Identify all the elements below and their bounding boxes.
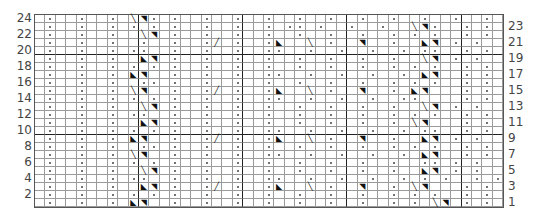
purl-stitch-cell (170, 151, 180, 159)
knit-stitch-cell (149, 71, 159, 79)
purl-stitch-cell (472, 55, 482, 63)
knit-stitch-cell (482, 135, 492, 143)
cable-stitch-cell: ◥ (139, 135, 149, 143)
purl-stitch-cell (77, 151, 87, 159)
knit-stitch-cell (316, 119, 326, 127)
knit-stitch-cell (243, 127, 253, 135)
knit-stitch-cell (66, 199, 76, 207)
twist-right-icon: ◥ (358, 39, 367, 46)
purl-stitch-cell (202, 143, 212, 151)
knit-stitch-cell (378, 127, 388, 135)
knit-stitch-cell (337, 23, 347, 31)
twist-right-icon: ◥ (149, 167, 158, 174)
knit-stitch-cell (56, 55, 66, 63)
knit-stitch-cell (295, 95, 305, 103)
knit-stitch-cell (66, 159, 76, 167)
knit-stitch-cell (378, 111, 388, 119)
twist-right-icon: ◥ (441, 199, 450, 206)
knit-stitch-cell (35, 15, 45, 23)
knit-stitch-cell (191, 127, 201, 135)
purl-stitch-cell (202, 135, 212, 143)
knit-stitch-cell (254, 103, 264, 111)
purl-stitch-cell (368, 127, 378, 135)
knit-stitch-cell (222, 119, 232, 127)
knit-stitch-cell (441, 127, 451, 135)
purl-stitch-cell (441, 175, 451, 183)
purl-stitch-cell (264, 87, 274, 95)
knit-stitch-cell (118, 135, 128, 143)
knit-stitch-cell (181, 39, 191, 47)
knit-stitch-cell (243, 167, 253, 175)
knit-stitch-cell (243, 183, 253, 191)
knit-stitch-cell (337, 103, 347, 111)
purl-stitch-cell (233, 167, 243, 175)
knit-stitch-cell (66, 183, 76, 191)
row-label-right: 17 (508, 67, 523, 81)
knit-stitch-cell (451, 95, 461, 103)
purl-stitch-cell (233, 95, 243, 103)
cable-stitch-cell: ◣ (274, 135, 284, 143)
knit-stitch-cell (368, 23, 378, 31)
purl-stitch-cell (482, 111, 492, 119)
purl-stitch-cell (45, 191, 55, 199)
purl-stitch-cell (378, 23, 388, 31)
purl-stitch-cell (202, 95, 212, 103)
knit-stitch-cell (399, 79, 409, 87)
knit-stitch-cell (337, 183, 347, 191)
knit-stitch-cell (56, 111, 66, 119)
purl-stitch-cell (368, 47, 378, 55)
purl-stitch-cell (295, 15, 305, 23)
purl-stitch-cell (108, 47, 118, 55)
purl-stitch-cell (45, 159, 55, 167)
cable-stitch-cell: ╲ (129, 15, 139, 23)
knit-stitch-cell (482, 103, 492, 111)
knit-stitch-cell (181, 31, 191, 39)
knitting-chart-grid: ╲◥╲◥╲◥╱◣╲◥◣◥◣◥╲◥◣◥◣◥╲◥╱◣╲◥◣◥╲◥╲◥◣◥╲◥◣◥╱◣… (34, 14, 504, 208)
knit-stitch-cell (129, 119, 139, 127)
cable-stitch-cell: ◥ (358, 39, 368, 47)
knit-stitch-cell (87, 183, 97, 191)
cable-stitch-cell: ◥ (149, 55, 159, 63)
knit-stitch-cell (66, 151, 76, 159)
chart-row (35, 175, 503, 183)
purl-stitch-cell (451, 103, 461, 111)
left-cross-icon: ╲ (139, 31, 148, 38)
knit-stitch-cell (451, 119, 461, 127)
knit-stitch-cell (295, 151, 305, 159)
knit-stitch-cell (243, 55, 253, 63)
purl-stitch-cell (233, 79, 243, 87)
knit-stitch-cell (337, 191, 347, 199)
purl-stitch-cell (170, 167, 180, 175)
purl-stitch-cell (462, 191, 472, 199)
knit-stitch-cell (66, 103, 76, 111)
knit-stitch-cell (87, 39, 97, 47)
purl-stitch-cell (295, 119, 305, 127)
knit-stitch-cell (160, 191, 170, 199)
cable-stitch-cell: ◣ (420, 39, 430, 47)
row-label-left: 10 (16, 123, 32, 137)
purl-stitch-cell (45, 135, 55, 143)
twist-right-icon: ◥ (139, 135, 148, 142)
row-label-left: 8 (16, 139, 32, 153)
twist-right-icon: ◥ (139, 71, 148, 78)
purl-stitch-cell (326, 167, 336, 175)
knit-stitch-cell (118, 183, 128, 191)
knit-stitch-cell (285, 119, 295, 127)
knit-stitch-cell (56, 39, 66, 47)
knit-stitch-cell (337, 31, 347, 39)
knit-stitch-cell (66, 15, 76, 23)
twist-left-icon: ◣ (129, 135, 138, 142)
purl-stitch-cell (149, 15, 159, 23)
knit-stitch-cell (368, 111, 378, 119)
knit-stitch-cell (35, 87, 45, 95)
cable-stitch-cell: ╱ (212, 39, 222, 47)
purl-stitch-cell (45, 71, 55, 79)
knit-stitch-cell (285, 159, 295, 167)
cable-stitch-cell: ╱ (212, 135, 222, 143)
knit-stitch-cell (389, 127, 399, 135)
knit-stitch-cell (462, 55, 472, 63)
left-cross-icon: ╲ (410, 119, 419, 126)
knit-stitch-cell (368, 31, 378, 39)
knit-stitch-cell (243, 119, 253, 127)
knit-stitch-cell (326, 23, 336, 31)
